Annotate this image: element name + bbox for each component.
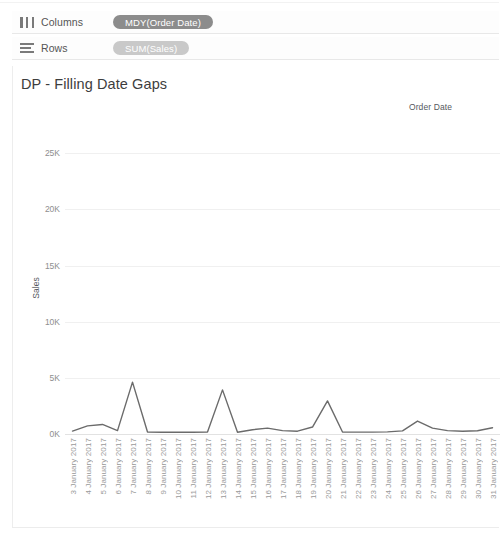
pill-sum-sales[interactable]: SUM(Sales): [113, 41, 189, 55]
x-tick-label: 18 January 2017: [294, 438, 303, 499]
line-path: [73, 382, 493, 432]
x-tick-label: 17 January 2017: [279, 438, 288, 499]
x-tick-label: 5 January 2017: [99, 438, 108, 495]
x-tick-label: 7 January 2017: [129, 438, 138, 495]
rows-shelf[interactable]: Rows SUM(Sales): [12, 37, 499, 60]
x-tick-label: 28 January 2017: [444, 438, 453, 499]
x-tick-label: 21 January 2017: [339, 438, 348, 499]
pill-mdy-order-date[interactable]: MDY(Order Date): [113, 15, 213, 29]
sales-line-series[interactable]: [65, 142, 500, 434]
x-tick-label: 23 January 2017: [369, 438, 378, 499]
x-tick-label: 4 January 2017: [84, 438, 93, 495]
column-field-header: Order Date: [409, 102, 452, 112]
y-tick-label: 20K: [45, 204, 60, 214]
x-tick-label: 3 January 2017: [69, 438, 78, 495]
x-tick-label: 22 January 2017: [354, 438, 363, 499]
x-tick-label: 27 January 2017: [429, 438, 438, 499]
x-tick-label: 26 January 2017: [414, 438, 423, 499]
y-tick-label: 10K: [45, 317, 60, 327]
x-tick-label: 6 January 2017: [114, 438, 123, 495]
x-tick-label: 8 January 2017: [144, 438, 153, 495]
y-axis-title: Sales: [31, 277, 41, 298]
columns-shelf[interactable]: Columns MDY(Order Date): [12, 11, 499, 34]
x-tick-label: 16 January 2017: [264, 438, 273, 499]
line-chart-plot[interactable]: Sales 0K5K10K15K20K25K: [65, 142, 500, 434]
page-title: DP - Filling Date Gaps: [21, 76, 167, 92]
rows-shelf-label: Rows: [41, 42, 113, 54]
columns-shelf-label: Columns: [41, 16, 113, 28]
worksheet-canvas[interactable]: DP - Filling Date Gaps Order Date Sales …: [12, 66, 499, 527]
bottom-divider: [12, 527, 499, 528]
x-tick-label: 31 January 2017: [489, 438, 498, 499]
x-tick-label: 9 January 2017: [159, 438, 168, 495]
x-tick-label: 29 January 2017: [459, 438, 468, 499]
columns-icon: [20, 17, 34, 28]
x-tick-label: 25 January 2017: [399, 438, 408, 499]
x-tick-label: 13 January 2017: [219, 438, 228, 499]
x-tick-label: 19 January 2017: [309, 438, 318, 499]
x-tick-label: 15 January 2017: [249, 438, 258, 499]
y-tick-label: 25K: [45, 148, 60, 158]
y-tick-label: 15K: [45, 261, 60, 271]
y-tick-label: 5K: [50, 373, 60, 383]
x-tick-label: 14 January 2017: [234, 438, 243, 499]
x-tick-label: 20 January 2017: [324, 438, 333, 499]
gridline: [65, 434, 500, 435]
x-tick-label: 24 January 2017: [384, 438, 393, 499]
x-tick-label: 11 January 2017: [189, 438, 198, 499]
rows-icon: [20, 43, 34, 53]
y-tick-label: 0K: [50, 429, 60, 439]
x-tick-label: 12 January 2017: [204, 438, 213, 499]
x-tick-label: 10 January 2017: [174, 438, 183, 499]
x-axis-tick-labels: 3 January 20174 January 20175 January 20…: [65, 438, 500, 518]
shelf-area: Columns MDY(Order Date) Rows SUM(Sales): [0, 3, 499, 63]
x-tick-label: 30 January 2017: [474, 438, 483, 499]
